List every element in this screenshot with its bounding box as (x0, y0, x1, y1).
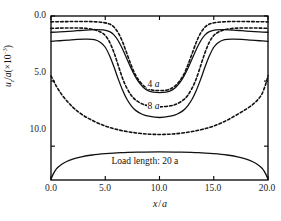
ytick-label-2: 10.0 (18, 124, 46, 134)
load-length-note: Load length: 20 a (112, 156, 179, 166)
curve-label-8a: 8 a (147, 102, 161, 112)
xtick-label-0: 0.0 (39, 183, 63, 193)
xtick-label-1: 5.0 (93, 183, 117, 193)
y-axis-title-var: u (3, 82, 13, 87)
y-axis-title-text: uz/a(×10−3) (2, 30, 15, 102)
xtick-label-2: 10.0 (147, 183, 171, 193)
curve-label-4a: 4 a (147, 80, 161, 90)
y-axis-title: uz/a(×10−3) (2, 30, 18, 102)
y-axis-title-sub: z (9, 80, 15, 82)
ytick-label-1: 5.0 (22, 67, 46, 77)
y-axis-title-exp: −3 (2, 48, 8, 54)
figure-container: 0.0 5.0 10.0 0.0 5.0 10.0 15.0 20.0 x/a … (0, 0, 281, 221)
xtick-label-4: 20.0 (255, 183, 279, 193)
xtick-label-3: 15.0 (201, 183, 225, 193)
y-axis-title-close: ) (3, 45, 13, 48)
ytick-label-0: 0.0 (22, 10, 46, 20)
y-axis-title-mid: /a(×10 (3, 54, 13, 79)
x-axis-title: x/a (120, 198, 200, 209)
x-axis-title-a: a (162, 198, 167, 209)
